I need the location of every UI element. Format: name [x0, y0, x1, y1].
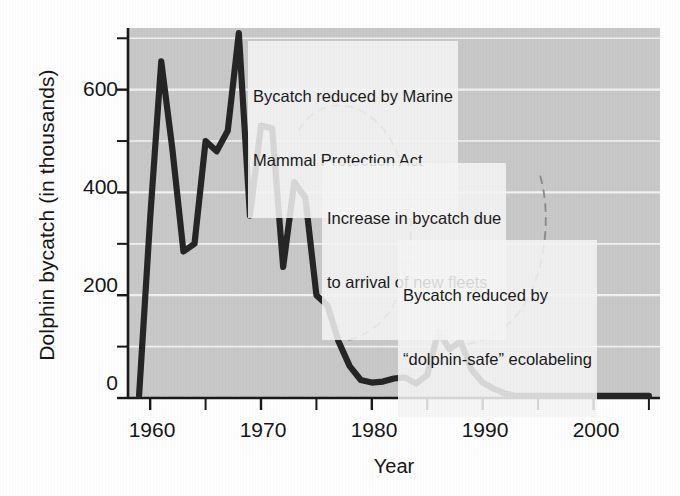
chart-figure: Dolphin bycatch (in thousands) 0 200 400… [0, 0, 680, 496]
annotation-mmpa-line-1: Bycatch reduced by Marine [253, 86, 453, 107]
annotation-dolphin-safe-line-1: Bycatch reduced by [403, 285, 592, 306]
annotation-dolphin-safe-line-2: “dolphin-safe” ecolabeling [403, 349, 592, 370]
annotation-new-fleets-line-1: Increase in bycatch due [327, 208, 501, 229]
annotation-dolphin-safe: Bycatch reduced by “dolphin-safe” ecolab… [398, 240, 597, 417]
